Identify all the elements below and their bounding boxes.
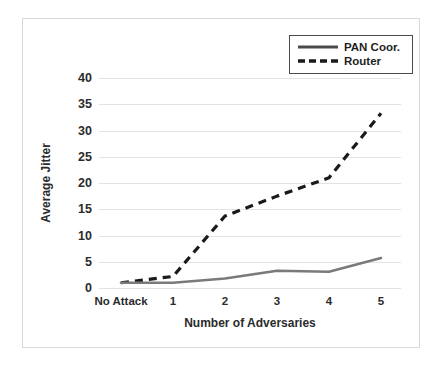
x-tick-label: 2 bbox=[222, 295, 228, 307]
x-axis-title: Number of Adversaries bbox=[99, 316, 401, 330]
legend-swatch-solid-icon bbox=[296, 42, 340, 52]
y-axis-title-label: Average Jitter bbox=[39, 143, 53, 223]
x-tick-label: 1 bbox=[170, 295, 176, 307]
y-tick-label: 40 bbox=[78, 71, 92, 85]
y-tick-label: 20 bbox=[78, 176, 92, 190]
legend-item-router: Router bbox=[296, 54, 406, 68]
y-axis-title: Average Jitter bbox=[37, 78, 55, 288]
x-tick-label: 4 bbox=[326, 295, 332, 307]
legend-item-pan-coor: PAN Coor. bbox=[296, 40, 406, 54]
chart-figure: Average Jitter 0510152025303540 No Attac… bbox=[22, 18, 420, 348]
y-tick-label: 10 bbox=[78, 229, 92, 243]
chart-legend: PAN Coor. Router bbox=[289, 35, 413, 74]
y-tick-label: 25 bbox=[78, 150, 92, 164]
series-lines bbox=[99, 78, 401, 288]
gridline bbox=[99, 288, 401, 289]
y-tick-label: 15 bbox=[78, 202, 92, 216]
legend-swatch-dashed-icon bbox=[296, 56, 340, 66]
y-tick-label: 30 bbox=[78, 124, 92, 138]
y-tick-label: 0 bbox=[85, 281, 92, 295]
y-tick-label: 35 bbox=[78, 97, 92, 111]
legend-label-pan-coor: PAN Coor. bbox=[340, 41, 400, 53]
series-line-pan-coor bbox=[121, 258, 381, 283]
y-tick-label: 5 bbox=[85, 255, 92, 269]
legend-label-router: Router bbox=[340, 55, 381, 67]
plot-area: 0510152025303540 No Attack12345 Number o… bbox=[99, 78, 401, 288]
x-tick-label: 3 bbox=[274, 295, 280, 307]
x-tick-label: No Attack bbox=[94, 295, 147, 307]
x-tick-label: 5 bbox=[378, 295, 384, 307]
series-line-router bbox=[121, 113, 381, 283]
